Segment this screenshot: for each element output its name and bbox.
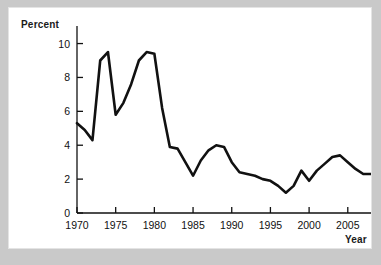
y-tick-label: 8 [64,71,70,83]
data-series-group [77,52,371,193]
data-line-percent [77,52,371,193]
x-tick-label: 1995 [259,219,283,231]
x-tick-label: 1985 [181,219,205,231]
y-tick-label: 6 [64,105,70,117]
y-tick-label: 4 [64,139,70,151]
x-tick-label: 2000 [297,219,321,231]
x-tick-label: 2005 [336,219,360,231]
y-tick-label: 0 [64,207,70,219]
x-axis: 19701975198019851990199520002005 [65,207,371,231]
chart-panel: Percent Year 0246810 1970197519801985199… [9,8,371,248]
y-axis: 0246810 [58,26,83,219]
x-tick-label: 1990 [220,219,244,231]
line-plot: 0246810 19701975198019851990199520002005 [9,8,371,248]
x-tick-label: 1970 [65,219,89,231]
chart-figure: Percent Year 0246810 1970197519801985199… [0,0,381,265]
y-tick-label: 2 [64,173,70,185]
y-tick-label: 10 [58,38,70,50]
x-tick-label: 1975 [104,219,128,231]
x-tick-label: 1980 [143,219,167,231]
